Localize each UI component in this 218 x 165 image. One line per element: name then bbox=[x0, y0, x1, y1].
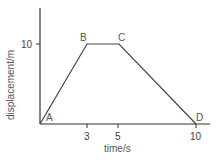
point-label-d: D bbox=[196, 112, 203, 123]
y-tick-10: 10 bbox=[21, 39, 33, 50]
point-label-a: A bbox=[46, 112, 53, 123]
displacement-time-chart: 10 3 5 10 time/s displacement/m A B C D bbox=[0, 0, 218, 165]
x-tick-3: 3 bbox=[84, 131, 90, 142]
y-axis-label: displacement/m bbox=[5, 50, 16, 120]
point-label-c: C bbox=[118, 32, 125, 43]
x-axis-label: time/s bbox=[104, 143, 131, 154]
point-label-b: B bbox=[80, 32, 87, 43]
x-tick-5: 5 bbox=[115, 131, 121, 142]
displacement-line bbox=[40, 44, 196, 124]
x-tick-10: 10 bbox=[190, 131, 202, 142]
